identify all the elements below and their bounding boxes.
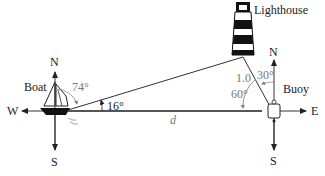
length-label: 1.0 [236, 71, 251, 85]
bearing-diagram: N S W Boat d 74° 16° Lighthouse 1.0 N S [0, 0, 325, 176]
distance-label: d [170, 113, 177, 127]
angle-30-arc [262, 82, 274, 84]
angle-60-label: 60° [231, 87, 248, 101]
buoy-east-label: E [311, 104, 318, 118]
lighthouse-label: Lighthouse [254, 3, 308, 17]
lighthouse-icon [232, 2, 254, 55]
angle-16-label: 16° [107, 99, 124, 113]
buoy-north-label: N [269, 45, 278, 59]
buoy-south-label: S [270, 154, 277, 168]
boat-south-label: S [51, 155, 58, 169]
boat-north-label: N [50, 55, 59, 69]
angle-16-arc [101, 100, 102, 111]
angle-74-label: 74° [72, 80, 89, 94]
boat-label: Boat [24, 80, 47, 94]
boat-to-lighthouse-line [68, 57, 243, 110]
boat-west-label: W [7, 104, 19, 118]
angle-30-label: 30° [257, 68, 274, 82]
buoy-label: Buoy [283, 82, 309, 96]
